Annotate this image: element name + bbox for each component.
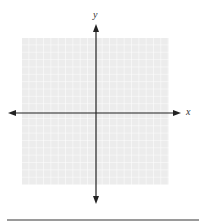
x-axis-label: x — [186, 106, 190, 117]
x-axis-left-arrow-icon — [8, 110, 16, 116]
x-axis-right-arrow-icon — [173, 110, 181, 116]
coordinate-plane-figure: y x — [0, 0, 199, 223]
y-axis-down-arrow-icon — [93, 196, 99, 204]
grid-area — [22, 38, 169, 185]
horizontal-rule — [7, 219, 199, 221]
y-axis-label: y — [93, 9, 97, 20]
y-axis-up-arrow-icon — [93, 24, 99, 32]
coordinate-plane-svg — [0, 0, 199, 223]
